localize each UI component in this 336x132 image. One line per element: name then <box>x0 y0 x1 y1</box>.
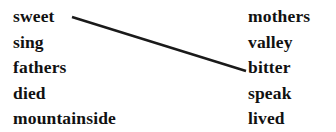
list-item[interactable]: bitter <box>248 55 310 81</box>
list-item[interactable]: mothers <box>248 4 310 30</box>
word-matching-exercise: sweet sing fathers died mountainside mot… <box>0 0 336 132</box>
list-item[interactable]: fathers <box>13 55 116 81</box>
list-item[interactable]: speak <box>248 81 310 107</box>
list-item[interactable]: lived <box>248 106 310 132</box>
list-item[interactable]: sweet <box>13 4 116 30</box>
list-item[interactable]: mountainside <box>13 106 116 132</box>
right-word-column: mothers valley bitter speak lived <box>248 4 310 132</box>
list-item[interactable]: died <box>13 81 116 107</box>
list-item[interactable]: sing <box>13 30 116 56</box>
list-item[interactable]: valley <box>248 30 310 56</box>
left-word-column: sweet sing fathers died mountainside <box>13 4 116 132</box>
